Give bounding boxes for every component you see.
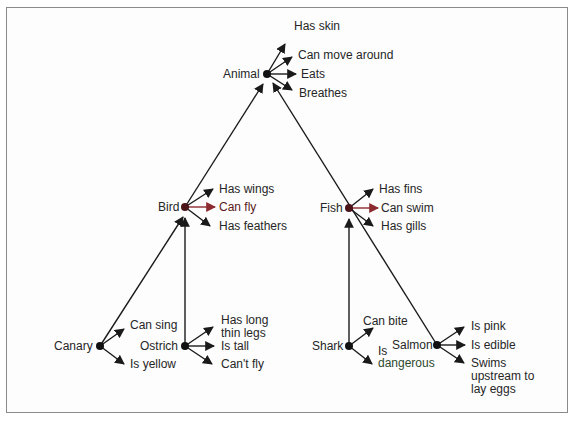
property-label: dangerous xyxy=(378,357,435,370)
node-label-bird: Bird xyxy=(158,201,179,214)
canary-node-dot xyxy=(96,342,104,350)
property-label: Can move around xyxy=(298,49,393,62)
node-label-animal: Animal xyxy=(223,68,260,81)
property-label: Has gills xyxy=(381,220,426,233)
ostrich-node-dot xyxy=(181,342,189,350)
property-label: Can bite xyxy=(363,315,408,328)
node-label-canary: Canary xyxy=(54,340,93,353)
property-label: Can sing xyxy=(130,319,177,332)
shark-node-dot xyxy=(345,342,353,350)
property-label: Can swim xyxy=(381,202,434,215)
property-label-accent: Can fly xyxy=(219,201,256,214)
animal-node-dot xyxy=(263,70,271,78)
property-label: Has fins xyxy=(379,183,422,196)
property-label: Eats xyxy=(301,68,325,81)
property-label: Has wings xyxy=(219,183,274,196)
property-label: Breathes xyxy=(299,87,347,100)
fish-node-dot xyxy=(345,204,353,212)
property-label: Is pink xyxy=(471,320,506,333)
property-label: Has skin xyxy=(294,20,340,33)
property-label: Swims upstream to lay eggs xyxy=(471,357,541,396)
node-label-ostrich: Ostrich xyxy=(140,340,178,353)
property-label: Can't fly xyxy=(221,358,264,371)
property-label: Has long thin legs xyxy=(221,314,281,340)
salmon-node-dot xyxy=(433,341,441,349)
property-label: Is edible xyxy=(471,339,516,352)
property-label: Is yellow xyxy=(130,358,176,371)
property-label: Is tall xyxy=(221,340,249,353)
bird-node-dot xyxy=(181,203,189,211)
property-label: Has feathers xyxy=(219,220,287,233)
node-label-fish: Fish xyxy=(320,202,343,215)
node-label-salmon: Salmon xyxy=(392,339,433,352)
node-label-shark: Shark xyxy=(312,340,343,353)
